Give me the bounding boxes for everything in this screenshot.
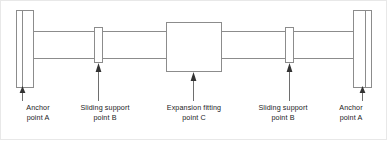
leader-support-right bbox=[287, 63, 293, 101]
label-sliding-support-left-line1: Sliding support bbox=[64, 103, 146, 113]
leader-fitting-arrowhead bbox=[191, 72, 197, 81]
expansion-fitting-body bbox=[167, 23, 222, 72]
anchor-left-body bbox=[17, 11, 34, 88]
sliding-support-right bbox=[286, 28, 294, 63]
leader-anchor-left bbox=[20, 86, 26, 101]
leader-anchor-right bbox=[360, 86, 366, 101]
label-sliding-support-left: Sliding support point B bbox=[64, 103, 146, 123]
sliding-support-left bbox=[95, 28, 103, 63]
piping-expansion-diagram: Anchor point A Sliding support point B E… bbox=[0, 0, 388, 141]
leader-support-left-arrowhead bbox=[96, 63, 102, 72]
leader-support-left bbox=[96, 63, 102, 101]
anchor-right-body bbox=[354, 11, 372, 88]
label-expansion-fitting-line2: point C bbox=[150, 113, 238, 123]
label-expansion-fitting: Expansion fitting point C bbox=[150, 103, 238, 123]
sliding-support-left-body bbox=[95, 28, 103, 63]
anchor-right bbox=[354, 11, 372, 88]
label-anchor-right-line1: Anchor bbox=[316, 103, 386, 113]
label-sliding-support-right-line1: Sliding support bbox=[242, 103, 324, 113]
label-sliding-support-right-line2: point B bbox=[242, 113, 324, 123]
label-expansion-fitting-line1: Expansion fitting bbox=[150, 103, 238, 113]
leader-fitting bbox=[191, 72, 197, 101]
sliding-support-right-body bbox=[286, 28, 294, 63]
label-sliding-support-right: Sliding support point B bbox=[242, 103, 324, 123]
leader-support-right-arrowhead bbox=[287, 63, 293, 72]
label-anchor-right: Anchor point A bbox=[316, 103, 386, 123]
anchor-left bbox=[17, 11, 34, 88]
expansion-fitting bbox=[167, 23, 222, 72]
label-sliding-support-left-line2: point B bbox=[64, 113, 146, 123]
label-anchor-right-line2: point A bbox=[316, 113, 386, 123]
